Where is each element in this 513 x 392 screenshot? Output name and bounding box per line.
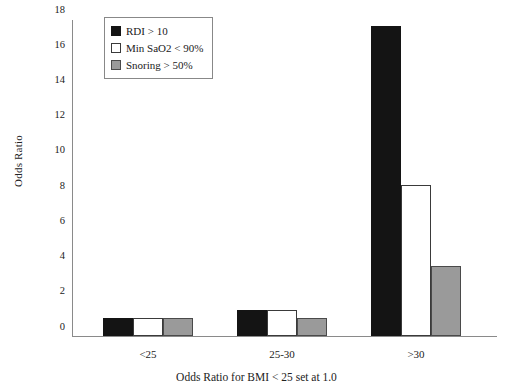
legend-label: Snoring > 50% bbox=[126, 59, 193, 71]
y-tick-label: 0 bbox=[60, 321, 65, 332]
y-tick-label: 2 bbox=[60, 286, 65, 297]
bar bbox=[163, 318, 193, 336]
legend-swatch-icon bbox=[111, 26, 121, 36]
bar bbox=[431, 266, 461, 336]
legend-swatch-icon bbox=[111, 43, 121, 53]
bar bbox=[297, 318, 327, 336]
x-tick-label: <25 bbox=[103, 348, 193, 360]
x-axis-line bbox=[72, 336, 497, 337]
y-tick-label: 12 bbox=[55, 110, 66, 121]
bar bbox=[371, 26, 401, 336]
x-tick-label: >30 bbox=[371, 348, 461, 360]
bar bbox=[133, 318, 163, 336]
y-tick-label: 18 bbox=[55, 4, 66, 15]
x-tick-label: 25-30 bbox=[237, 348, 327, 360]
legend-item: RDI > 10 bbox=[111, 22, 203, 39]
bar-group: 25-30 bbox=[237, 19, 327, 336]
bar-group: >30 bbox=[371, 19, 461, 336]
y-axis-line bbox=[72, 20, 73, 337]
y-tick-label: 16 bbox=[55, 39, 66, 50]
bar bbox=[103, 318, 133, 336]
y-tick-label: 14 bbox=[55, 75, 66, 86]
bar bbox=[267, 310, 297, 336]
y-tick-label: 8 bbox=[60, 180, 65, 191]
y-tick-label: 4 bbox=[60, 251, 65, 262]
legend-swatch-icon bbox=[111, 60, 121, 70]
y-tick-label: 6 bbox=[60, 216, 65, 227]
bar bbox=[237, 310, 267, 336]
y-axis-title: Odds Ratio bbox=[12, 116, 24, 206]
legend-label: Min SaO2 < 90% bbox=[126, 42, 203, 54]
bar bbox=[401, 185, 431, 336]
legend-label: RDI > 10 bbox=[126, 25, 168, 37]
chart-legend: RDI > 10Min SaO2 < 90%Snoring > 50% bbox=[104, 17, 213, 79]
bar-chart: Odds Ratio 024681012141618 <2525-30>30 O… bbox=[0, 0, 513, 392]
legend-item: Min SaO2 < 90% bbox=[111, 39, 203, 56]
y-tick-label: 10 bbox=[55, 145, 66, 156]
legend-item: Snoring > 50% bbox=[111, 56, 203, 73]
x-axis-title: Odds Ratio for BMI < 25 set at 1.0 bbox=[0, 371, 513, 383]
